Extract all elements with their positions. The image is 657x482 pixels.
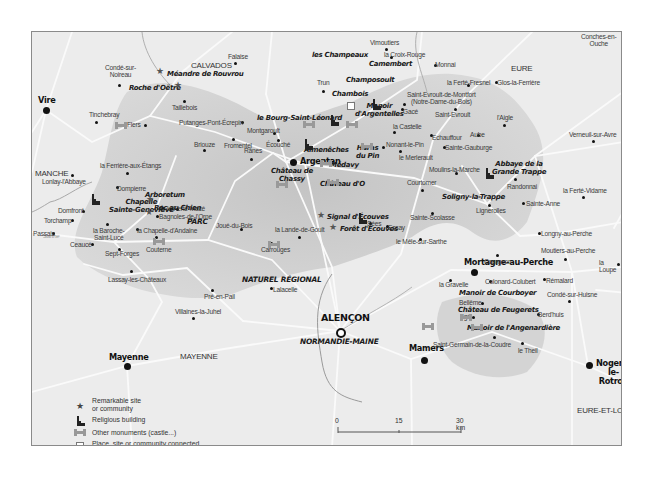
town-label[interactable]: Conches-en- Ouche [581,33,617,47]
monument-icon [320,160,332,167]
town-label[interactable]: la Castelle [393,123,422,130]
site-label[interactable]: Méandre de Rouvrou [167,70,244,78]
town-label[interactable]: Saint-Germain-de-la-Coudre [433,341,511,348]
town-label[interactable]: Villaines-la-Juhel [175,308,221,315]
town-label[interactable]: Putanges-Pont-Écrepin [179,119,243,126]
site-label[interactable]: Soligny-la-Trappe [442,193,505,201]
town-label[interactable]: Lonlay-l'Abbaye [42,178,86,185]
city-label-vire[interactable]: Vire [38,96,55,105]
town-label[interactable]: la Chapelle-d'Andaine [137,227,197,234]
town-label[interactable]: Sept-Forges [105,250,139,257]
site-label[interactable]: Roche d'Oëtre [129,84,181,92]
town-label[interactable]: la Lande-de-Goult [275,226,324,233]
town-label[interactable]: Joué-du-Bois [216,222,252,229]
site-label[interactable]: Roc au Chien [154,204,201,212]
town-label[interactable]: Flers [127,121,141,128]
town-label[interactable]: Taillebois [172,104,197,111]
town-label[interactable]: Dompierre [117,185,146,192]
town-label[interactable]: Aube [470,131,485,138]
town-marker [503,124,506,127]
region-label-eure: EURE [511,65,532,72]
town-label[interactable]: Rémalard [546,277,573,284]
town-marker [144,124,147,127]
site-label[interactable]: Camembert [369,60,412,68]
town-label[interactable]: Tinchebray [89,111,119,118]
town-marker [106,223,109,226]
town-label[interactable]: Saint-Evroult [435,111,470,118]
town-label[interactable]: Lalacelle [273,286,297,293]
city-label-alencon[interactable]: ALENÇON [321,314,370,321]
city-label-mayenne[interactable]: Mayenne [109,353,148,362]
town-marker [211,289,214,292]
town-label[interactable]: la Ferrière-aux-Étangs [100,162,161,169]
monument-icon [276,181,288,188]
town-label[interactable]: Monnai [435,61,455,68]
town-label[interactable]: Lignerolles [476,207,506,214]
region-label-manche: MANCHE [35,170,68,177]
town-label[interactable]: la Croix-Rouge [384,51,425,58]
site-label[interactable]: Médavy [330,161,359,169]
town-label[interactable]: le Merlerault [399,154,433,161]
town-label[interactable]: Vimoutiers [370,39,399,46]
site-label[interactable]: Abbaye de la Grande Trappe [492,160,546,176]
site-label[interactable]: les Champeaux [312,51,368,59]
town-label[interactable]: Falaise [228,53,248,60]
church-icon [91,194,100,205]
town-label[interactable]: Colonard-Colubert [485,278,535,285]
church-icon [358,213,367,224]
legend-item-ww2: Place, site or community connected with … [74,440,199,446]
city-marker-nogent [586,362,593,369]
town-label[interactable]: le Theil [518,347,538,354]
town-label[interactable]: Verneuil-sur-Avre [569,131,616,138]
town-label[interactable]: Longny-au-Perche [541,230,592,237]
town-label[interactable]: Fromentel [224,142,252,149]
town-label[interactable]: la Ferté-Fresnel [447,79,490,86]
town-label[interactable]: Nonant-le-Pin [386,141,424,148]
town-label[interactable]: la Ferté-Vidame [563,187,607,194]
town-marker [298,236,301,239]
site-label[interactable]: Château de Feugerets [458,306,539,314]
town-label[interactable]: Trun [317,79,330,86]
city-label-nogent[interactable]: Nogent-le- Rotrou [596,359,622,386]
town-label[interactable]: Glos-la-Ferrière [497,79,540,86]
town-label[interactable]: Condé-sur- Noireau [105,64,136,78]
town-label[interactable]: l'Aigle [497,114,513,121]
town-label[interactable]: Montgaroult [247,127,280,134]
town-label[interactable]: Pré-en-Pail [204,293,235,300]
site-label[interactable]: Chambois [332,90,368,98]
site-label[interactable]: Forêt d'Écouves [340,225,398,233]
monument-icon [460,314,472,321]
town-label[interactable]: la Baroche- Saint-Lucé [93,227,125,241]
site-label[interactable]: Manoir de Courboyer [459,289,536,297]
site-label[interactable]: Champosoult [346,76,394,84]
town-label[interactable]: Bellême [459,299,481,306]
city-marker-argentan [290,159,297,166]
town-label[interactable]: Sainte-Gauburge [445,144,492,151]
town-label[interactable]: Sainte-Anne [526,200,560,207]
town-label[interactable]: la Loupe [599,259,621,273]
town-label[interactable]: Lassay-les-Châteaux [108,276,166,283]
town-label[interactable]: Écouché [266,141,290,148]
town-label[interactable]: Berd'huis [538,311,563,318]
town-marker [493,336,496,339]
town-label[interactable]: la Gravelle [439,281,468,288]
town-label[interactable]: Saint-Evroult-de-Montfort (Notre-Dame-du… [407,91,476,105]
town-label[interactable]: Passais [33,230,55,237]
town-label[interactable]: Couterne [146,246,172,253]
town-label[interactable]: Torchamp [44,217,71,224]
town-label[interactable]: Briouze [194,141,215,148]
town-label[interactable]: Sainte-Scolasse [410,214,455,221]
town-marker [496,254,499,257]
town-label[interactable]: le Mêle-sur-Sarthe [396,238,447,245]
town-label[interactable]: Domfront [58,207,84,214]
town-label[interactable]: Condé-sur-Huisne [547,291,597,298]
town-label[interactable]: Echauffour [432,134,462,141]
town-label[interactable]: Bagnoles-de-l'Orne [159,213,212,220]
town-label[interactable]: Ceaucé [70,241,92,248]
town-label[interactable]: Randonnai [507,183,537,190]
town-label[interactable]: Courtomer [407,179,436,186]
town-label[interactable]: Courgeon [484,258,511,265]
town-label[interactable]: Moutiers-au-Perche [541,247,595,254]
town-label[interactable]: Gacé [403,108,418,115]
town-label[interactable]: Moulins-la-Marche [429,166,480,173]
